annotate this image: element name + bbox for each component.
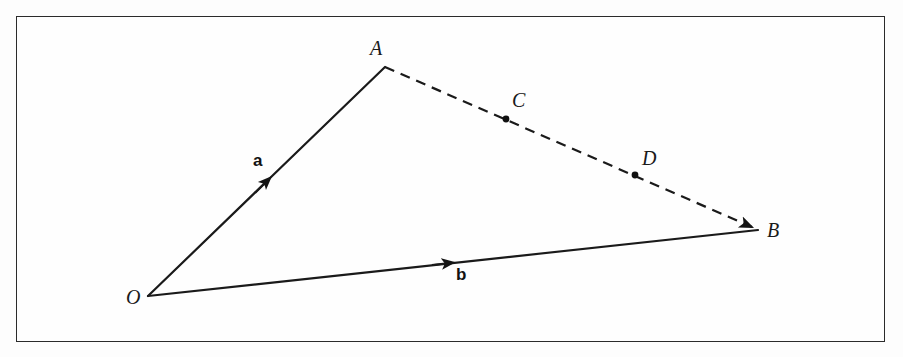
point-d-dot (632, 172, 639, 179)
segment-ob-line (148, 230, 758, 296)
point-label-b: B (767, 220, 779, 240)
segment-ab-group (385, 67, 752, 227)
point-label-c: C (512, 90, 525, 110)
figure-root: O A B C D a b (0, 0, 903, 357)
point-label-a: A (370, 38, 382, 58)
segment-oa-group (148, 67, 385, 296)
point-c-dot (503, 116, 510, 123)
segment-ob-group (148, 230, 758, 296)
point-label-d: D (642, 148, 656, 168)
segment-ab-dashed-line (385, 67, 752, 227)
vector-label-a: a (253, 152, 262, 169)
point-label-o: O (126, 287, 140, 307)
vector-label-b: b (456, 266, 466, 283)
vector-a-arrow-marker (255, 180, 268, 193)
